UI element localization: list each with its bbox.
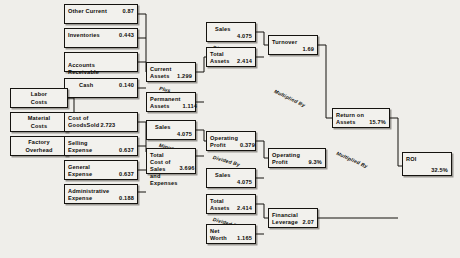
node-label: Total Assets <box>210 198 229 212</box>
node-value: 1.114 <box>183 103 198 110</box>
node-general-expense: General Expense 0.637 <box>64 160 138 180</box>
node-value: 9.3% <box>309 159 322 166</box>
node-value: 2.414 <box>237 58 252 65</box>
node-label: Net Worth <box>210 228 235 242</box>
node-administrative-expense: Administrative Expense 0.188 <box>64 184 138 204</box>
node-label: Return on Assets <box>336 112 364 126</box>
node-value: 0.637 <box>119 147 134 154</box>
node-sales-turnover: Sales 4.075 <box>206 22 256 42</box>
node-cost-of-goods-sold: Cost of GoodsSold2.723 <box>64 112 138 132</box>
node-label: Financial Leverage <box>272 212 298 226</box>
node-value: 3.696 <box>180 165 195 172</box>
node-inventories: Inventories 0.443 <box>64 28 138 48</box>
node-value: 1.299 <box>177 73 192 80</box>
node-total-assets-turnover: Total Assets 2.414 <box>206 47 256 67</box>
node-label: Cost of GoodsSold <box>68 115 99 128</box>
node-cash: Cash 0.140 <box>64 78 138 98</box>
node-value: 4.075 <box>237 33 252 40</box>
node-value: 2.723 <box>100 122 115 128</box>
node-value: 0.379 <box>240 142 255 149</box>
node-labor-costs: Labor Costs <box>10 88 68 108</box>
node-selling-expense: Selling Expense 0.637 <box>64 136 138 156</box>
node-value: 0.637 <box>119 171 134 178</box>
node-operating-profit-pct: Operating Profit 9.3% <box>268 148 326 168</box>
node-label: Total Assets <box>210 51 229 65</box>
node-accounts-receivable: Accounts Receivable <box>64 52 138 72</box>
node-value: 2.414 <box>237 205 252 212</box>
node-label: Permanent Assets <box>150 96 181 110</box>
node-label: General Expense <box>68 164 92 178</box>
node-sales-margin: Sales 4.075 <box>206 168 256 188</box>
node-turnover: Turnover 1.69 <box>268 35 318 55</box>
roi-tree-diagram: Other Current 0.87 Inventories 0.443 Acc… <box>0 0 460 258</box>
node-label: Turnover <box>272 39 297 46</box>
node-total-cost: Total Cost of Sales and Expenses 3.696 <box>146 148 196 174</box>
node-value: 0.140 <box>119 82 134 89</box>
node-label: Sales <box>215 172 231 179</box>
node-value: 0.188 <box>119 195 134 202</box>
node-value: 1.165 <box>237 235 252 242</box>
node-value: 4.075 <box>177 131 192 138</box>
node-value: 15.7% <box>369 119 386 126</box>
node-label: Cash <box>79 82 93 89</box>
node-value: 4.075 <box>237 179 252 186</box>
node-return-on-assets: Return on Assets 15.7% <box>332 108 390 128</box>
node-label: ROI <box>406 156 417 163</box>
node-total-assets-leverage: Total Assets 2.414 <box>206 194 256 214</box>
node-label: Accounts Receivable <box>68 62 134 76</box>
node-material-costs: Material Costs <box>10 112 68 132</box>
node-label: Material Costs <box>28 115 51 129</box>
node-operating-profit-abs: Operating Profit 0.379 <box>206 131 256 151</box>
node-value: 32.5% <box>431 167 448 174</box>
node-label: Sales <box>155 124 171 131</box>
node-value: 0.87 <box>122 8 134 15</box>
node-value: 2.07 <box>302 219 314 226</box>
node-permanent-assets: Permanent Assets 1.114 <box>146 92 196 112</box>
node-other-current: Other Current 0.87 <box>64 4 138 24</box>
node-label: Sales <box>215 26 231 33</box>
node-label: Selling Expense <box>68 140 92 154</box>
node-current-assets: Current Assets 1.299 <box>146 62 196 82</box>
node-value: 1.69 <box>302 46 314 53</box>
node-label: Current Assets <box>150 66 171 80</box>
node-label: Factory Overhead <box>25 139 52 153</box>
node-financial-leverage: Financial Leverage 2.07 <box>268 208 318 228</box>
node-label: Total Cost of Sales and Expenses <box>150 152 178 188</box>
node-roi: ROI 32.5% <box>402 152 452 176</box>
node-net-worth: Net Worth 1.165 <box>206 224 256 244</box>
node-label: Other Current <box>68 8 107 15</box>
node-label: Operating Profit <box>272 152 307 166</box>
node-label: Labor Costs <box>31 91 47 105</box>
node-label: Administrative Expense <box>68 188 109 202</box>
node-label: Inventories <box>68 32 100 39</box>
node-sales-top: Sales 4.075 <box>146 120 196 140</box>
node-factory-overhead: Factory Overhead <box>10 136 68 156</box>
node-label: Operating Profit <box>210 135 238 149</box>
node-value: 0.443 <box>119 32 134 39</box>
